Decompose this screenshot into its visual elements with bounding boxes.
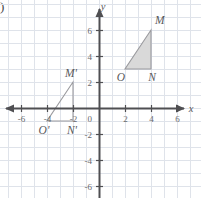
x-tick-label-2: 2 bbox=[123, 114, 128, 124]
x-tick-label--2: -2 bbox=[70, 114, 78, 124]
y-tick-label--6: -6 bbox=[85, 182, 93, 192]
x-tick-label--6: -6 bbox=[18, 114, 26, 124]
vertex-label-M: M bbox=[154, 14, 166, 26]
vertex-label-N-prime: N' bbox=[66, 124, 78, 136]
vertex-label-O: O bbox=[117, 71, 126, 83]
y-tick-label-2: 2 bbox=[88, 78, 93, 88]
vertex-labels: M O N M' O' N' bbox=[39, 14, 166, 136]
y-axis-name: y bbox=[100, 1, 106, 12]
axes bbox=[6, 9, 184, 198]
vertex-label-O-prime: O' bbox=[39, 124, 50, 136]
coordinate-plane-canvas: -6 -4 -2 2 4 6 6 4 2 -2 -4 -6 0 x y M O … bbox=[0, 0, 201, 198]
vertex-label-M-prime: M' bbox=[64, 67, 78, 79]
y-tick-label-6: 6 bbox=[88, 26, 93, 36]
x-axis-name: x bbox=[188, 103, 194, 114]
coordinate-plane-figure: ) bbox=[0, 0, 201, 198]
y-tick-label-4: 4 bbox=[88, 52, 93, 62]
x-tick-label--4: -4 bbox=[44, 114, 52, 124]
x-tick-label-6: 6 bbox=[175, 114, 180, 124]
y-tick-label--2: -2 bbox=[85, 130, 93, 140]
x-tick-label-4: 4 bbox=[149, 114, 154, 124]
origin-label: 0 bbox=[88, 114, 93, 124]
vertex-label-N: N bbox=[147, 71, 157, 83]
y-tick-label--4: -4 bbox=[85, 156, 93, 166]
